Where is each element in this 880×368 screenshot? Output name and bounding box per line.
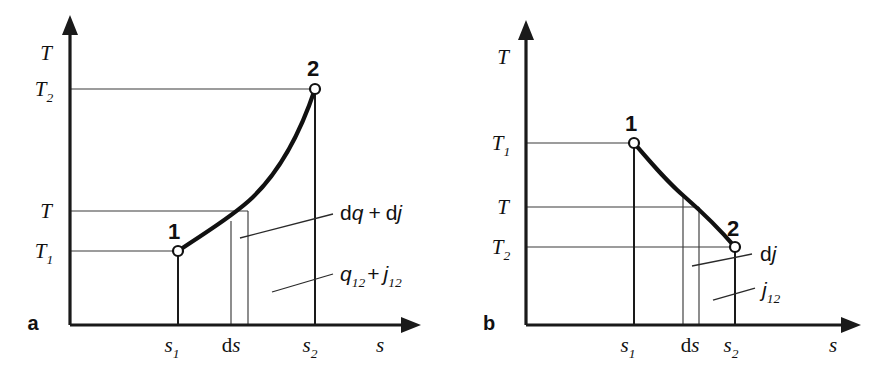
panel-b-x-axis-arrow — [841, 317, 861, 333]
panel-a-ytick-T1-sub: 1 — [46, 252, 53, 267]
panel-a-process-curve — [178, 89, 315, 251]
panel-a-xtick-ds-d: d — [222, 333, 233, 357]
panel-a-state-point-2 — [310, 84, 320, 94]
panel-b-state-label-1: 1 — [625, 111, 637, 136]
panel-a-xtick-s2-base: s — [303, 333, 311, 357]
panel-b-ylabel-T: T — [497, 45, 510, 69]
panel-b-xtick-s2-sub: 2 — [732, 346, 739, 361]
panel-b-xtick-ds-s: s — [691, 333, 699, 357]
panel-b-xtick-s2-base: s — [724, 333, 732, 357]
panel-b-xtick-s1-sub: 1 — [629, 346, 636, 361]
panel-b-annot-d: d — [760, 242, 772, 265]
panel-b-label: b — [483, 312, 495, 334]
panel-a-state-label-2: 2 — [307, 56, 319, 81]
panel-b-xtick-ds: ds — [681, 333, 700, 357]
panel-a-xtick-s1-sub: 1 — [173, 346, 180, 361]
panel-a-annot2-plus: + — [367, 262, 379, 285]
panel-a-xlabel-s: s — [376, 333, 384, 357]
panel-b-annot2-j-sub: 12 — [767, 291, 781, 306]
panel-a-state-point-1 — [173, 246, 183, 256]
panel-b-state-point-2 — [730, 242, 740, 252]
panel-b-ytick-T1: T1 — [492, 131, 510, 159]
panel-a-state-label-1: 1 — [168, 219, 180, 244]
panel-b-xtick-ds-d: d — [681, 333, 692, 357]
panel-a-leader-dq-dj — [240, 214, 333, 238]
panel-b: T T1 T T2 s1 ds s2 s 1 2 — [483, 20, 861, 361]
panel-a-xtick-s2: s2 — [303, 333, 318, 361]
panel-a-annot2-j-sub: 12 — [388, 275, 402, 290]
panel-b-process-curve — [634, 143, 735, 247]
panel-b-ytick-T1-sub: 1 — [503, 144, 510, 159]
panel-a-annot-d2: d — [386, 201, 398, 224]
panel-a-leader-q12-j12 — [272, 274, 333, 292]
panel-b-xtick-s2: s2 — [724, 333, 739, 361]
panel-a-annotation-q12-j12: q12+j12 — [340, 262, 402, 290]
panel-a-xtick-s1: s1 — [165, 333, 180, 361]
panel-b-ytick-T: T — [497, 195, 510, 219]
panel-a-x-axis-arrow — [401, 317, 421, 333]
panel-a-ylabel-T: T — [40, 41, 53, 65]
panel-b-ytick-T2-sub: 2 — [503, 248, 510, 263]
panel-a-annot-d1: d — [340, 201, 352, 224]
panel-b-annotation-j12: j12 — [759, 278, 780, 306]
panel-a: T T2 T T1 s1 ds s2 s 1 2 — [27, 15, 421, 361]
panel-a-annotation-dq-dj: dq+dj — [340, 201, 403, 224]
panel-a-ytick-T1: T1 — [35, 239, 53, 267]
panel-a-y-axis-arrow — [62, 15, 78, 35]
panel-b-annotation-dj: dj — [760, 242, 778, 265]
panel-a-ytick-T2: T2 — [35, 77, 54, 105]
panel-a-annot-q: q — [352, 201, 364, 224]
panel-a-xtick-ds: ds — [222, 333, 241, 357]
panel-b-leader-dj — [692, 254, 752, 266]
panel-b-state-point-1 — [629, 138, 639, 148]
panel-a-annot-plus: + — [368, 201, 380, 224]
panel-a-annot2-q-sub: 12 — [352, 275, 366, 290]
panel-b-y-axis-arrow — [518, 20, 534, 40]
panel-a-ytick-T: T — [40, 199, 53, 223]
figure-root: T T2 T T1 s1 ds s2 s 1 2 — [0, 0, 880, 368]
panel-a-ytick-T2-sub: 2 — [46, 90, 53, 105]
panel-b-xtick-s1: s1 — [621, 333, 636, 361]
panel-a-label: a — [27, 312, 39, 334]
panel-b-state-label-2: 2 — [727, 216, 739, 241]
panel-a-annot2-q: q — [340, 262, 352, 285]
panel-b-xlabel-s: s — [829, 333, 837, 357]
panel-a-xtick-s2-sub: 2 — [311, 346, 318, 361]
panel-a-xtick-ds-s: s — [232, 333, 240, 357]
panel-b-xtick-s1-base: s — [621, 333, 629, 357]
panel-b-ytick-T2: T2 — [492, 235, 511, 263]
panel-a-xtick-s1-base: s — [165, 333, 173, 357]
ts-diagram-canvas: T T2 T T1 s1 ds s2 s 1 2 — [0, 0, 880, 368]
